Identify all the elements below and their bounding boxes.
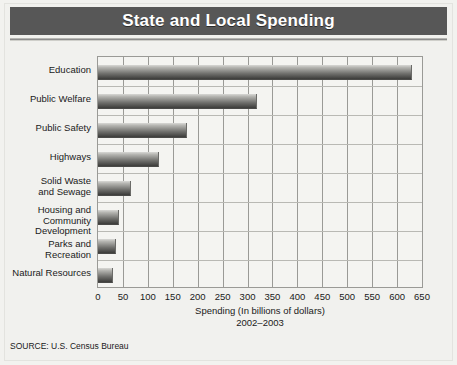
- category-label-line: Public Welfare: [0, 94, 91, 105]
- row-separator: [98, 144, 422, 145]
- category-label-line: Education: [0, 65, 91, 76]
- gridline-x-350: [272, 57, 273, 287]
- category-label-education: Education: [0, 65, 95, 76]
- source-note: SOURCE: U.S. Census Bureau: [10, 341, 129, 351]
- row-separator: [98, 202, 422, 203]
- x-tick-0: 0: [95, 291, 100, 302]
- chart-title-band: State and Local Spending: [10, 7, 447, 35]
- row-separator: [98, 173, 422, 174]
- x-tick-300: 300: [240, 291, 256, 302]
- category-label-natural-resources: Natural Resources: [0, 268, 95, 279]
- category-label-line: Parks and Recreation: [0, 239, 91, 260]
- row-separator: [98, 260, 422, 261]
- category-label-line: Housing and: [0, 205, 91, 216]
- gridline-x-400: [297, 57, 298, 287]
- bar-public-safety: [98, 123, 187, 138]
- bar-solid-waste-and-sewage: [98, 181, 131, 196]
- gridline-x-600: [397, 57, 398, 287]
- gridline-x-500: [347, 57, 348, 287]
- category-axis-labels: EducationPublic WelfarePublic SafetyHigh…: [0, 56, 95, 288]
- gridline-x-300: [248, 57, 249, 287]
- x-axis-period: 2002–2003: [97, 317, 423, 329]
- x-tick-450: 450: [314, 291, 330, 302]
- category-label-line: Solid Waste: [0, 176, 91, 187]
- gridline-x-200: [198, 57, 199, 287]
- row-separator: [98, 115, 422, 116]
- x-tick-250: 250: [215, 291, 231, 302]
- bar-parks-and-recreation: [98, 239, 116, 254]
- gridline-x-100: [148, 57, 149, 287]
- bar-education: [98, 65, 412, 80]
- row-separator: [98, 231, 422, 232]
- chart-screenshot: State and Local Spending EducationPublic…: [0, 0, 457, 365]
- x-tick-500: 500: [339, 291, 355, 302]
- row-separator: [98, 86, 422, 87]
- gridline-x-550: [372, 57, 373, 287]
- gridline-x-150: [173, 57, 174, 287]
- x-axis-title: Spending (In billions of dollars): [97, 305, 423, 317]
- x-tick-200: 200: [190, 291, 206, 302]
- plot-area: [97, 56, 423, 288]
- category-label-parks-and-recreation: Parks and Recreation: [0, 239, 95, 260]
- category-label-solid-waste-and-sewage: Solid Wasteand Sewage: [0, 176, 95, 197]
- gridline-x-650: [422, 57, 423, 287]
- category-label-public-welfare: Public Welfare: [0, 94, 95, 105]
- x-tick-150: 150: [165, 291, 181, 302]
- gridline-x-50: [123, 57, 124, 287]
- bar-public-welfare: [98, 94, 257, 109]
- category-label-line: Natural Resources: [0, 268, 91, 279]
- category-label-public-safety: Public Safety: [0, 123, 95, 134]
- bar-highways: [98, 152, 159, 167]
- category-label-line: Community Development: [0, 216, 91, 237]
- category-label-line: Highways: [0, 152, 91, 163]
- x-tick-100: 100: [140, 291, 156, 302]
- page-title: State and Local Spending: [122, 11, 335, 31]
- x-axis-tick-labels: 050100150200250300350400450500550600650: [97, 291, 423, 305]
- title-divider: [10, 38, 447, 41]
- gridline-x-450: [322, 57, 323, 287]
- gridline-x-250: [223, 57, 224, 287]
- x-tick-50: 50: [118, 291, 129, 302]
- x-tick-350: 350: [265, 291, 281, 302]
- category-label-line: and Sewage: [0, 187, 91, 198]
- x-tick-400: 400: [289, 291, 305, 302]
- x-tick-650: 650: [414, 291, 430, 302]
- x-tick-600: 600: [389, 291, 405, 302]
- bar-housing-and-community-development: [98, 210, 119, 225]
- category-label-housing-and-community-development: Housing andCommunity Development: [0, 205, 95, 237]
- category-label-line: Public Safety: [0, 123, 91, 134]
- category-label-highways: Highways: [0, 152, 95, 163]
- bar-natural-resources: [98, 268, 113, 283]
- x-tick-550: 550: [364, 291, 380, 302]
